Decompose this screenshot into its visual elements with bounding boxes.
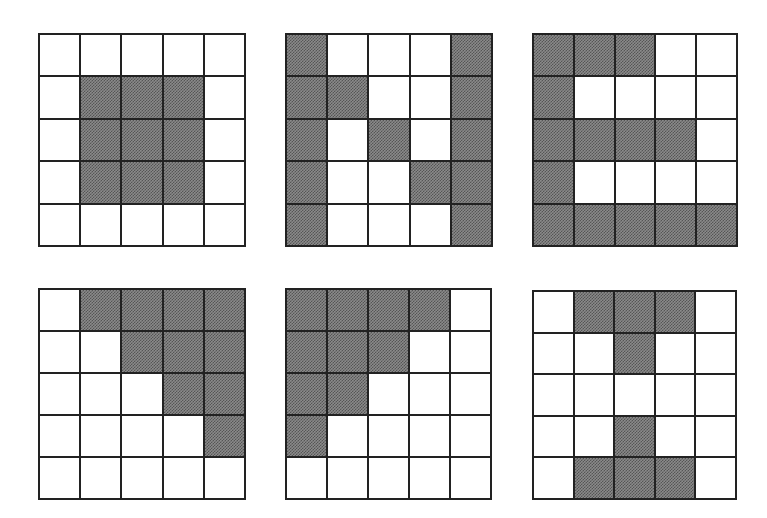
empty-cell [121, 457, 162, 499]
filled-cell [286, 204, 327, 246]
filled-cell [286, 373, 327, 415]
filled-cell [121, 161, 162, 203]
empty-cell [409, 415, 450, 457]
filled-cell [368, 331, 409, 373]
empty-cell [368, 76, 409, 118]
filled-cell [163, 76, 204, 118]
empty-cell [204, 457, 245, 499]
empty-cell [655, 333, 696, 375]
empty-cell [80, 373, 121, 415]
empty-cell [655, 374, 696, 416]
empty-cell [204, 76, 245, 118]
empty-cell [121, 34, 162, 76]
empty-cell [409, 373, 450, 415]
empty-cell [368, 373, 409, 415]
empty-cell [80, 415, 121, 457]
empty-cell [39, 204, 80, 246]
empty-cell [368, 457, 409, 499]
empty-cell [450, 331, 491, 373]
empty-cell [204, 119, 245, 161]
empty-cell [327, 119, 368, 161]
filled-cell [327, 331, 368, 373]
filled-cell [327, 289, 368, 331]
empty-cell [327, 204, 368, 246]
empty-cell [121, 415, 162, 457]
empty-cell [409, 457, 450, 499]
filled-cell [368, 289, 409, 331]
empty-cell [327, 457, 368, 499]
filled-cell [533, 119, 574, 161]
empty-cell [39, 119, 80, 161]
grid-2 [285, 33, 493, 247]
filled-cell [574, 119, 615, 161]
filled-cell [163, 373, 204, 415]
filled-cell [574, 34, 615, 76]
filled-cell [614, 291, 655, 333]
empty-cell [121, 204, 162, 246]
filled-cell [121, 289, 162, 331]
filled-cell [286, 119, 327, 161]
empty-cell [450, 457, 491, 499]
filled-cell [451, 161, 492, 203]
filled-cell [655, 204, 696, 246]
empty-cell [574, 161, 615, 203]
empty-cell [163, 34, 204, 76]
empty-cell [533, 416, 574, 458]
empty-cell [327, 415, 368, 457]
filled-cell [286, 289, 327, 331]
filled-cell [163, 161, 204, 203]
grid-3 [532, 33, 738, 247]
empty-cell [574, 416, 615, 458]
filled-cell [204, 331, 245, 373]
grid-1 [38, 33, 246, 247]
empty-cell [695, 333, 736, 375]
filled-cell [204, 289, 245, 331]
filled-cell [80, 119, 121, 161]
empty-cell [410, 34, 451, 76]
empty-cell [696, 161, 737, 203]
empty-cell [39, 457, 80, 499]
filled-cell [533, 204, 574, 246]
empty-cell [286, 457, 327, 499]
filled-cell [286, 161, 327, 203]
empty-cell [39, 76, 80, 118]
empty-cell [696, 76, 737, 118]
empty-cell [696, 119, 737, 161]
filled-cell [204, 415, 245, 457]
empty-cell [163, 457, 204, 499]
empty-cell [410, 204, 451, 246]
filled-cell [163, 119, 204, 161]
empty-cell [533, 333, 574, 375]
filled-cell [614, 457, 655, 499]
empty-cell [574, 333, 615, 375]
filled-cell [163, 289, 204, 331]
empty-cell [39, 289, 80, 331]
empty-cell [410, 119, 451, 161]
filled-cell [451, 76, 492, 118]
empty-cell [615, 76, 656, 118]
filled-cell [615, 34, 656, 76]
grid-6 [532, 290, 737, 500]
filled-cell [615, 119, 656, 161]
filled-cell [574, 291, 615, 333]
filled-cell [80, 289, 121, 331]
filled-cell [286, 415, 327, 457]
empty-cell [695, 291, 736, 333]
empty-cell [80, 457, 121, 499]
filled-cell [574, 204, 615, 246]
filled-cell [410, 161, 451, 203]
filled-cell [614, 333, 655, 375]
empty-cell [655, 416, 696, 458]
empty-cell [533, 457, 574, 499]
filled-cell [327, 373, 368, 415]
empty-cell [163, 415, 204, 457]
empty-cell [204, 161, 245, 203]
empty-cell [450, 289, 491, 331]
filled-cell [533, 34, 574, 76]
empty-cell [614, 374, 655, 416]
empty-cell [39, 161, 80, 203]
filled-cell [614, 416, 655, 458]
filled-cell [80, 161, 121, 203]
filled-cell [574, 457, 615, 499]
filled-cell [327, 76, 368, 118]
